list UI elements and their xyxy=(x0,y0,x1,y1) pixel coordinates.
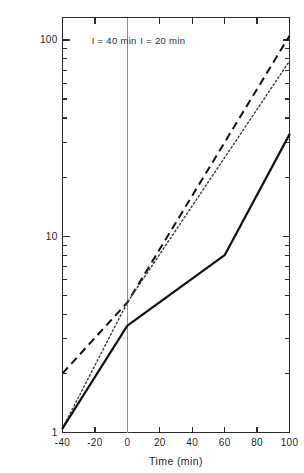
semilog-chart: 110100 -40-20020406080100 I = 40 min I =… xyxy=(0,0,304,473)
plot-frame xyxy=(63,18,290,433)
series-dashed-curve xyxy=(63,36,290,374)
y-tick-label: 10 xyxy=(46,231,58,242)
x-axis-major-ticks xyxy=(63,18,290,433)
x-tick-label: 0 xyxy=(124,437,130,448)
x-tick-label: 40 xyxy=(186,437,198,448)
y-tick-label: 100 xyxy=(40,34,58,45)
y-axis-tick-labels: 110100 xyxy=(40,34,58,438)
x-tick-label: 20 xyxy=(154,437,166,448)
x-tick-label: 100 xyxy=(281,437,299,448)
x-tick-label: -40 xyxy=(55,437,70,448)
x-tick-label: 60 xyxy=(219,437,231,448)
y-axis-minor-ticks xyxy=(63,49,290,374)
x-axis-tick-labels: -40-20020406080100 xyxy=(55,437,299,448)
axis-frame xyxy=(63,18,290,433)
figure-root: 110100 -40-20020406080100 I = 40 min I =… xyxy=(0,0,304,473)
x-tick-label: 80 xyxy=(251,437,263,448)
x-tick-label: -20 xyxy=(87,437,102,448)
x-axis-title: Time (min) xyxy=(149,455,203,467)
series-solid-curve xyxy=(63,134,290,428)
annotation-left-panel: I = 40 min xyxy=(92,35,137,46)
annotation-right-panel: I = 20 min xyxy=(140,35,185,46)
